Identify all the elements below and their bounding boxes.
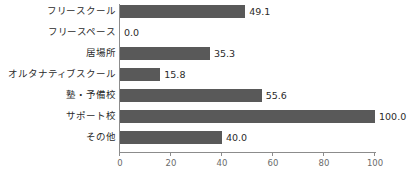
x-axis-tick-label: 60 bbox=[268, 158, 279, 168]
x-axis-tick bbox=[170, 153, 171, 156]
x-axis-tick-label: 40 bbox=[217, 158, 228, 168]
x-axis-tick bbox=[221, 153, 222, 156]
bar bbox=[120, 110, 375, 123]
category-label: その他 bbox=[0, 131, 116, 142]
x-axis-line bbox=[119, 152, 376, 153]
x-axis-tick bbox=[323, 153, 324, 156]
category-label: サポート校 bbox=[0, 110, 116, 121]
category-label: 塾・予備校 bbox=[0, 89, 116, 100]
bar-value-label: 15.8 bbox=[164, 68, 185, 81]
bar bbox=[120, 131, 222, 144]
x-axis-tick bbox=[119, 153, 120, 156]
bar bbox=[120, 47, 210, 60]
plot-area: 0 20 40 60 80 100 49.1 0.0 35.3 15.8 55.… bbox=[120, 4, 376, 152]
bar-value-label: 55.6 bbox=[266, 89, 287, 102]
x-axis-tick bbox=[374, 153, 375, 156]
category-label: オルタナティブスクール bbox=[0, 68, 116, 79]
category-label: 居場所 bbox=[0, 47, 116, 58]
bar-value-label: 0.0 bbox=[124, 26, 139, 39]
x-axis-tick-label: 100 bbox=[367, 158, 383, 168]
bar-value-label: 35.3 bbox=[214, 47, 235, 60]
bar-chart: フリースクール フリースペース 居場所 オルタナティブスクール 塾・予備校 サポ… bbox=[0, 0, 412, 177]
x-axis-tick bbox=[272, 153, 273, 156]
bar bbox=[120, 5, 245, 18]
category-axis-labels: フリースクール フリースペース 居場所 オルタナティブスクール 塾・予備校 サポ… bbox=[0, 0, 116, 152]
x-axis-tick-label: 80 bbox=[319, 158, 330, 168]
category-label: フリースペース bbox=[0, 26, 116, 37]
bar-value-label: 49.1 bbox=[249, 5, 270, 18]
bar-value-label: 100.0 bbox=[379, 110, 406, 123]
x-axis-tick-label: 0 bbox=[117, 158, 122, 168]
bar-value-label: 40.0 bbox=[226, 131, 247, 144]
bar bbox=[120, 68, 160, 81]
category-label: フリースクール bbox=[0, 5, 116, 16]
bar bbox=[120, 89, 262, 102]
x-axis-tick-label: 20 bbox=[166, 158, 177, 168]
